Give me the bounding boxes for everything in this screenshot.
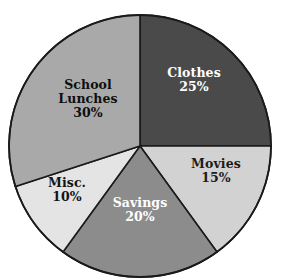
pie-chart: Clothes 25% Movies 15% Savings 20% Misc.… [0,0,283,278]
pie-slices-group [9,15,271,277]
pie-chart-canvas [0,0,283,278]
pie-slice-clothes [140,15,271,146]
